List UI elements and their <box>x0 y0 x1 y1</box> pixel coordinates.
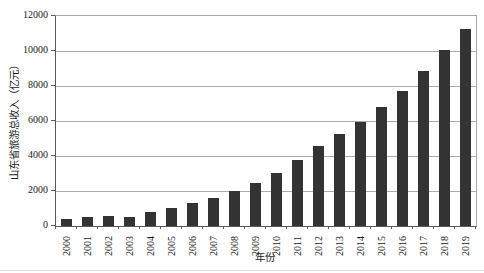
x-tick-label-2017: 2017 <box>418 230 429 256</box>
x-boundary-tick-10 <box>265 226 266 229</box>
bar-2001 <box>82 217 93 226</box>
x-tick-label-2009: 2009 <box>250 230 261 256</box>
bar-2005 <box>166 208 177 226</box>
x-boundary-tick-13 <box>328 226 329 229</box>
bar-2015 <box>376 107 387 226</box>
x-boundary-tick-2 <box>97 226 98 229</box>
gridline-10000 <box>56 51 476 52</box>
x-boundary-tick-4 <box>139 226 140 229</box>
x-tick-label-2002: 2002 <box>103 230 114 256</box>
x-tick-label-2001: 2001 <box>82 230 93 256</box>
y-tick-12000 <box>51 15 55 16</box>
bar-2004 <box>145 212 156 226</box>
x-tick-label-2006: 2006 <box>187 230 198 256</box>
bar-2002 <box>103 216 114 226</box>
x-boundary-tick-1 <box>76 226 77 229</box>
y-tick-label-2000: 2000 <box>14 184 48 196</box>
x-boundary-tick-11 <box>286 226 287 229</box>
x-tick-label-2018: 2018 <box>439 230 450 256</box>
bar-chart-figure: 山东省旅游总收入（亿元） 年份 020004000600080001000012… <box>0 0 484 273</box>
y-tick-4000 <box>51 155 55 156</box>
x-boundary-tick-7 <box>202 226 203 229</box>
y-tick-label-10000: 10000 <box>14 44 48 56</box>
x-boundary-tick-3 <box>118 226 119 229</box>
bar-2016 <box>397 91 408 226</box>
x-boundary-tick-16 <box>391 226 392 229</box>
gridline-4000 <box>56 156 476 157</box>
x-boundary-tick-5 <box>160 226 161 229</box>
x-boundary-tick-17 <box>412 226 413 229</box>
x-boundary-tick-20 <box>475 226 476 229</box>
x-tick-label-2007: 2007 <box>208 230 219 256</box>
bar-2006 <box>187 203 198 226</box>
y-tick-label-6000: 6000 <box>14 114 48 126</box>
bar-2013 <box>334 134 345 226</box>
x-tick-label-2005: 2005 <box>166 230 177 256</box>
x-tick-label-2013: 2013 <box>334 230 345 256</box>
x-tick-label-2019: 2019 <box>460 230 471 256</box>
gridline-2000 <box>56 191 476 192</box>
bar-2010 <box>271 173 282 226</box>
y-tick-8000 <box>51 85 55 86</box>
bar-2014 <box>355 122 366 226</box>
bar-2018 <box>439 50 450 226</box>
x-boundary-tick-14 <box>349 226 350 229</box>
x-tick-label-2016: 2016 <box>397 230 408 256</box>
y-tick-10000 <box>51 50 55 51</box>
x-boundary-tick-19 <box>454 226 455 229</box>
x-boundary-tick-12 <box>307 226 308 229</box>
x-tick-label-2014: 2014 <box>355 230 366 256</box>
x-tick-label-2003: 2003 <box>124 230 135 256</box>
bar-2007 <box>208 198 219 226</box>
x-boundary-tick-6 <box>181 226 182 229</box>
y-tick-label-4000: 4000 <box>14 149 48 161</box>
page-edge-line <box>0 270 484 271</box>
bar-2011 <box>292 160 303 226</box>
x-tick-label-2010: 2010 <box>271 230 282 256</box>
gridline-8000 <box>56 86 476 87</box>
bar-2019 <box>460 29 471 226</box>
y-tick-2000 <box>51 190 55 191</box>
x-tick-label-2004: 2004 <box>145 230 156 256</box>
x-boundary-tick-15 <box>370 226 371 229</box>
y-tick-label-8000: 8000 <box>14 79 48 91</box>
x-boundary-tick-18 <box>433 226 434 229</box>
x-tick-label-2000: 2000 <box>61 230 72 256</box>
bar-2009 <box>250 183 261 226</box>
bar-2000 <box>61 219 72 226</box>
y-tick-label-12000: 12000 <box>14 9 48 21</box>
x-tick-label-2011: 2011 <box>292 230 303 256</box>
gridline-6000 <box>56 121 476 122</box>
x-tick-label-2012: 2012 <box>313 230 324 256</box>
y-tick-label-0: 0 <box>14 219 48 231</box>
x-tick-label-2008: 2008 <box>229 230 240 256</box>
x-boundary-tick-0 <box>55 226 56 229</box>
x-boundary-tick-8 <box>223 226 224 229</box>
bar-2017 <box>418 71 429 226</box>
plot-area <box>55 15 477 227</box>
x-tick-label-2015: 2015 <box>376 230 387 256</box>
bar-2003 <box>124 217 135 226</box>
bar-2008 <box>229 191 240 226</box>
x-boundary-tick-9 <box>244 226 245 229</box>
bar-2012 <box>313 146 324 226</box>
y-tick-6000 <box>51 120 55 121</box>
